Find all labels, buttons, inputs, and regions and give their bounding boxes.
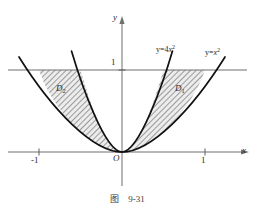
curve-label-inner-prefix: y=4 [156,45,169,54]
y-axis-arrow-icon [119,16,124,24]
curve-label-inner: y=4x2 [156,44,175,54]
origin-label: O [113,154,120,163]
figure-caption: 图9-31 [0,192,255,205]
x-tick-label-neg1: -1 [31,156,39,165]
figure-container: y x O -1 1 1 D1 D2 y=4x2 y=x2 图9-31 [0,0,255,218]
caption-number: 9-31 [128,194,145,204]
region-label-d1-subscript: 1 [182,87,185,94]
x-tick-label-pos1: 1 [201,156,206,165]
x-axis-label: x [242,146,246,155]
curve-label-inner-exponent: 2 [172,44,175,50]
curve-label-outer: y=x2 [205,47,220,57]
y-tick-label-1: 1 [111,58,116,67]
region-label-d1: D1 [175,84,185,94]
region-label-d2: D2 [56,84,66,94]
caption-prefix: 图 [110,194,119,204]
plot-canvas [0,0,255,218]
region-label-d2-subscript: 2 [63,87,66,94]
y-axis-label: y [113,13,117,22]
curve-label-outer-exponent: 2 [217,47,220,53]
curve-label-outer-prefix: y= [205,48,214,57]
